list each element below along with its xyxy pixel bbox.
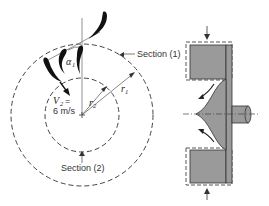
flow-arrowhead-top [198,94,204,99]
velocity-arrowhead [63,88,70,96]
right-view [183,26,259,200]
radius-r2-line [82,87,106,115]
left-view: Section (1) Section (2) α 1 r 2 r 1 V 2 … [11,12,181,186]
section-1-label: Section (1) [137,49,181,59]
inlet-arrowhead-bottom [204,188,210,194]
diagram-canvas: Section (1) Section (2) α 1 r 2 r 1 V 2 … [0,0,269,206]
impeller-bottom-block [190,150,226,183]
radius-r2-arrowhead [101,86,107,92]
r1-subscript: 1 [125,88,128,95]
velocity-equals: = [65,96,70,106]
guide-vane-top [88,12,107,39]
section-2-label: Section (2) [61,163,105,173]
velocity-value: 6 m/s [53,106,76,116]
flow-arrowhead-bottom [198,129,204,134]
impeller-hub-cone [196,79,226,150]
shaft-end [245,106,251,123]
inlet-arrowhead-top [204,34,210,40]
alpha-subscript: 1 [72,61,75,68]
impeller-top-block [190,45,226,79]
radius-r1-arrowhead [129,72,135,78]
